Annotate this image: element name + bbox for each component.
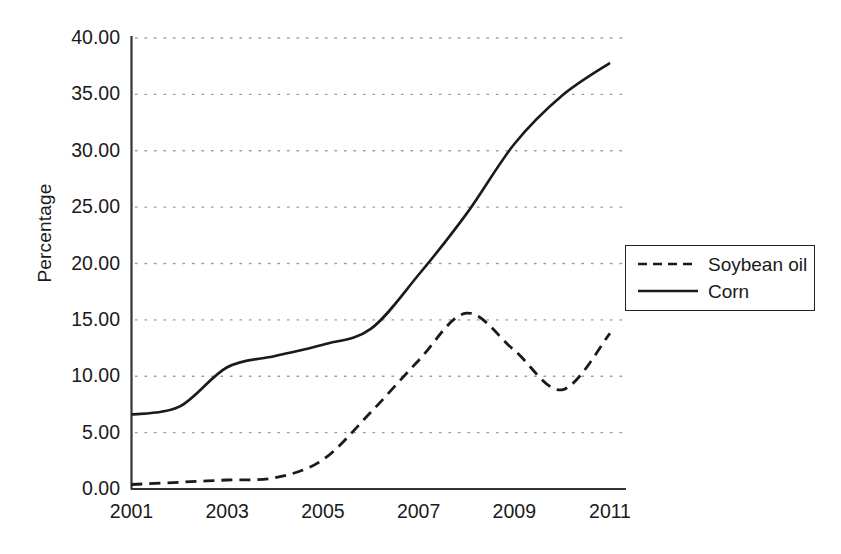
line-chart: Percentage 0.005.0010.0015.0020.0025.003… bbox=[0, 0, 841, 554]
legend-swatch-solid-icon bbox=[637, 284, 699, 298]
series-line-corn bbox=[132, 63, 611, 415]
legend-item-soybean-oil: Soybean oil bbox=[637, 253, 807, 275]
legend-swatch-dashed-icon bbox=[637, 257, 699, 271]
gridlines bbox=[136, 38, 627, 433]
legend-label-corn: Corn bbox=[708, 282, 749, 301]
series-line-soybean-oil bbox=[132, 313, 611, 484]
legend-item-corn: Corn bbox=[637, 280, 749, 302]
legend-label-soybean-oil: Soybean oil bbox=[708, 255, 807, 274]
legend: Soybean oil Corn bbox=[625, 245, 815, 311]
data-series bbox=[132, 63, 611, 485]
